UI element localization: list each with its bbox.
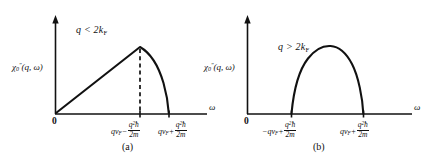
panel-b-plot bbox=[220, 0, 440, 163]
tick-lead-peak-a: qv bbox=[111, 127, 119, 136]
chi-curve-b bbox=[292, 46, 364, 114]
chi-curve-a bbox=[56, 47, 169, 113]
tick-num-tail-end-b: ħ bbox=[364, 120, 368, 129]
tick-op-start-b: + bbox=[278, 127, 283, 136]
x-axis-label-b: ω bbox=[414, 103, 420, 112]
tick-num-tail-peak-a: ħ bbox=[135, 120, 139, 129]
tick-op-peak-a: − bbox=[122, 127, 127, 136]
tick-fraction-den-end-b: 2m bbox=[357, 131, 369, 140]
y-axis-arrow-b bbox=[244, 15, 250, 24]
condition-annotation-b: q > 2kF bbox=[278, 42, 309, 53]
tick-label-end-b: qvF+q2ħ2m bbox=[340, 121, 369, 140]
x-axis-label-a: ω bbox=[209, 103, 215, 112]
panel-a: χ0″(q, ω) q < 2kF 0 ω qvF−q2ħ2m qvF+q2ħ2… bbox=[0, 0, 220, 163]
condition-sub-a: F bbox=[103, 29, 107, 36]
y-axis-label-b: χ0″(q, ω) bbox=[204, 62, 235, 73]
tick-op-end-a: + bbox=[169, 127, 174, 136]
y-axis-arrow-a bbox=[52, 15, 58, 24]
origin-label-a: 0 bbox=[52, 117, 57, 127]
tick-label-start-b: −qvF+q2ħ2m bbox=[262, 121, 297, 140]
tick-fraction-end-b: q2ħ2m bbox=[357, 121, 369, 140]
tick-fraction-den-peak-a: 2m bbox=[128, 131, 140, 140]
tick-label-end-a: qvF+q2ħ2m bbox=[158, 121, 187, 140]
condition-annotation-a: q < 2kF bbox=[76, 25, 107, 36]
y-axis-label-a: χ0″(q, ω) bbox=[12, 62, 43, 73]
figure-root: χ0″(q, ω) q < 2kF 0 ω qvF−q2ħ2m qvF+q2ħ2… bbox=[0, 0, 440, 163]
subcaption-a: (a) bbox=[122, 142, 133, 152]
tick-op-end-b: + bbox=[351, 127, 356, 136]
tick-fraction-end-a: q2ħ2m bbox=[175, 121, 187, 140]
y-axis-label-args-b: (q, ω) bbox=[213, 62, 234, 72]
tick-lead-end-a: qv bbox=[158, 127, 166, 136]
condition-text-a: q < 2k bbox=[76, 24, 103, 35]
panel-b: χ0″(q, ω) q > 2kF 0 ω −qvF+q2ħ2m qvF+q2ħ… bbox=[220, 0, 440, 163]
tick-fraction-peak-a: q2ħ2m bbox=[128, 121, 140, 140]
y-axis-label-args-a: (q, ω) bbox=[21, 62, 42, 72]
tick-num-tail-end-a: ħ bbox=[182, 120, 186, 129]
tick-fraction-den-end-a: 2m bbox=[175, 131, 187, 140]
condition-text-b: q > 2k bbox=[278, 41, 305, 52]
condition-sub-b: F bbox=[305, 46, 309, 53]
subcaption-b: (b) bbox=[313, 142, 325, 152]
tick-lead-start-b: −qv bbox=[262, 127, 275, 136]
tick-num-tail-start-b: ħ bbox=[291, 120, 295, 129]
origin-label-b: 0 bbox=[244, 117, 249, 127]
tick-lead-end-b: qv bbox=[340, 127, 348, 136]
tick-fraction-start-b: q2ħ2m bbox=[284, 121, 296, 140]
tick-fraction-den-start-b: 2m bbox=[284, 131, 296, 140]
tick-label-peak-a: qvF−q2ħ2m bbox=[111, 121, 140, 140]
